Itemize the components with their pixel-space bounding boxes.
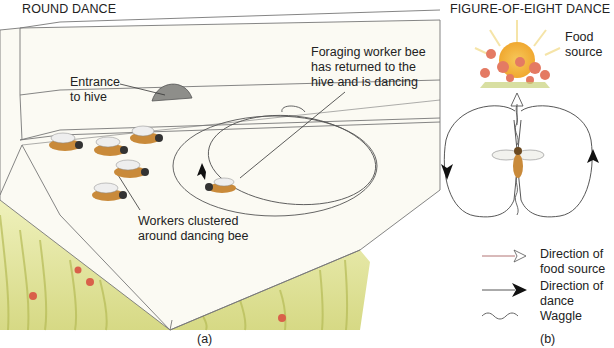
figure-eight-title: FIGURE-OF-EIGHT DANCE [450, 2, 610, 16]
dance-arrow-left [441, 164, 453, 180]
legend [482, 250, 527, 319]
legend-dance-direction-label: Direction of dance [540, 279, 603, 309]
flower-stems [480, 82, 550, 88]
legend-food-direction-label: Direction of food source [540, 247, 605, 277]
waggle-bee [492, 147, 544, 178]
caption-a: (a) [197, 332, 212, 347]
workers-label: Workers clustered around dancing bee [138, 214, 249, 244]
round-dance-title: ROUND DANCE [22, 2, 116, 16]
food-source-label: Food source [565, 30, 603, 60]
dance-arrow-right [587, 149, 599, 163]
entrance-label: Entrance to hive [70, 75, 120, 105]
open-arrow-icon [514, 250, 526, 262]
caption-b: (b) [540, 332, 555, 347]
waggle-line-icon [482, 313, 518, 319]
diagram-canvas [0, 0, 614, 348]
forager-label: Foraging worker bee has returned to the … [311, 45, 426, 90]
legend-waggle-label: Waggle [540, 309, 582, 324]
